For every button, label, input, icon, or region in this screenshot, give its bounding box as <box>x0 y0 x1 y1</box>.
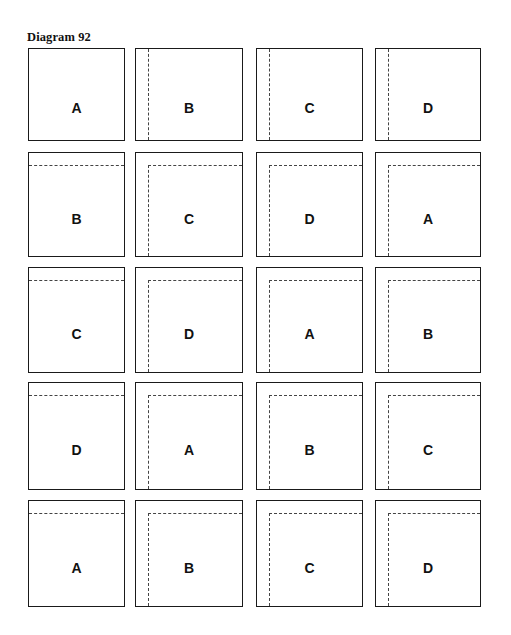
horizontal-fold-line <box>148 280 242 281</box>
square-r1-c2: B <box>135 48 243 141</box>
square-r2-c1: B <box>28 152 125 257</box>
square-r1-c1: A <box>28 48 125 141</box>
square-r4-c4: C <box>375 382 481 490</box>
square-r4-c2: A <box>135 382 243 490</box>
square-label: D <box>136 326 242 342</box>
square-r1-c4: D <box>375 48 481 141</box>
horizontal-fold-line <box>269 165 362 166</box>
horizontal-fold-line <box>269 513 362 514</box>
square-label: B <box>376 326 480 342</box>
square-r5-c1: A <box>28 500 125 607</box>
horizontal-fold-line <box>29 513 124 514</box>
square-label: B <box>257 442 362 458</box>
square-r4-c1: D <box>28 382 125 490</box>
square-r2-c2: C <box>135 152 243 257</box>
square-r3-c2: D <box>135 267 243 373</box>
horizontal-fold-line <box>269 395 362 396</box>
horizontal-fold-line <box>29 395 124 396</box>
square-label: B <box>136 100 242 116</box>
square-label: B <box>29 211 124 227</box>
diagram-title: Diagram 92 <box>27 30 91 45</box>
square-r5-c3: C <box>256 500 363 607</box>
square-label: D <box>376 560 480 576</box>
horizontal-fold-line <box>388 280 480 281</box>
horizontal-fold-line <box>388 513 480 514</box>
square-r3-c1: C <box>28 267 125 373</box>
square-label: A <box>376 211 480 227</box>
square-label: D <box>376 100 480 116</box>
horizontal-fold-line <box>148 395 242 396</box>
square-r5-c2: B <box>135 500 243 607</box>
square-r2-c4: A <box>375 152 481 257</box>
square-label: C <box>257 100 362 116</box>
square-r2-c3: D <box>256 152 363 257</box>
square-label: C <box>257 560 362 576</box>
horizontal-fold-line <box>29 165 124 166</box>
horizontal-fold-line <box>388 165 480 166</box>
square-label: A <box>29 560 124 576</box>
square-label: C <box>29 326 124 342</box>
square-r3-c3: A <box>256 267 363 373</box>
horizontal-fold-line <box>388 395 480 396</box>
horizontal-fold-line <box>29 280 124 281</box>
square-label: D <box>29 442 124 458</box>
square-label: D <box>257 211 362 227</box>
vertical-fold-line <box>269 49 270 140</box>
square-label: C <box>136 211 242 227</box>
square-r1-c3: C <box>256 48 363 141</box>
square-label: B <box>136 560 242 576</box>
square-label: C <box>376 442 480 458</box>
vertical-fold-line <box>388 49 389 140</box>
horizontal-fold-line <box>148 165 242 166</box>
square-label: A <box>257 326 362 342</box>
square-r5-c4: D <box>375 500 481 607</box>
horizontal-fold-line <box>148 513 242 514</box>
square-r4-c3: B <box>256 382 363 490</box>
vertical-fold-line <box>148 49 149 140</box>
square-r3-c4: B <box>375 267 481 373</box>
square-label: A <box>136 442 242 458</box>
horizontal-fold-line <box>269 280 362 281</box>
square-label: A <box>29 100 124 116</box>
